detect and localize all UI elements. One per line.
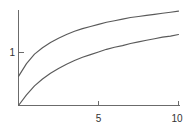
x-tick-label-5: 5 [96, 113, 102, 124]
upper-curve [19, 11, 179, 76]
curves-group [19, 11, 179, 105]
lower-curve [19, 34, 179, 105]
x-tick-label-10: 10 [171, 113, 183, 124]
chart-container: 1 5 10 [0, 0, 192, 134]
plot-area: 1 5 10 [0, 0, 192, 134]
y-tick-label-1: 1 [9, 47, 15, 58]
